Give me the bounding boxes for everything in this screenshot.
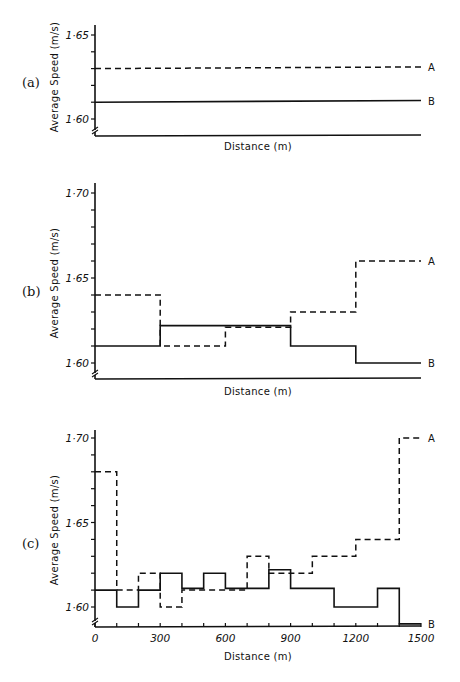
figure: (a) Average Speed (m/s) Distance (m) 1·6… — [0, 0, 460, 682]
series-a-label: A — [428, 62, 435, 73]
plot-area: 1·601·651·70030060090012001500AB — [66, 430, 435, 644]
panel-label: (a) — [22, 75, 40, 90]
series-b-label: B — [428, 358, 435, 369]
series-b-label: B — [428, 619, 435, 630]
x-tick-label: 1500 — [408, 632, 435, 644]
series-a-label: A — [428, 256, 435, 267]
x-tick-label: 300 — [150, 632, 170, 644]
x-tick-label: 0 — [92, 632, 99, 644]
x-axis-title: Distance (m) — [224, 386, 292, 397]
x-axis-title: Distance (m) — [224, 141, 292, 152]
panel-label: (c) — [22, 536, 39, 551]
y-tick-label: 1·65 — [66, 29, 90, 41]
x-axis-line — [95, 378, 421, 379]
y-axis-title: Average Speed (m/s) — [49, 22, 60, 133]
y-tick-label: 1·70 — [66, 432, 90, 444]
y-tick-label: 1·65 — [66, 272, 90, 284]
x-axis-title: Distance (m) — [224, 651, 292, 662]
series-a-line — [95, 67, 421, 69]
y-tick-label: 1·70 — [66, 187, 90, 199]
plot-area: 1·601·65AB — [66, 25, 435, 136]
plot-area: 1·601·651·70AB — [66, 183, 435, 379]
y-tick-label: 1·60 — [66, 601, 90, 613]
panel-c: (c) Average Speed (m/s) Distance (m) 1·6… — [22, 430, 435, 662]
x-axis-line — [95, 135, 421, 136]
series-a-label: A — [428, 433, 435, 444]
panel-label: (b) — [22, 284, 40, 299]
y-tick-label: 1·65 — [66, 517, 90, 529]
series-b-line — [95, 326, 421, 363]
y-axis-title: Average Speed (m/s) — [49, 475, 60, 586]
series-a-line — [95, 438, 421, 607]
x-axis-line — [95, 626, 421, 627]
x-tick-label: 900 — [281, 632, 301, 644]
panel-b: (b) Average Speed (m/s) Distance (m) 1·6… — [22, 183, 435, 397]
series-b-line — [95, 570, 421, 624]
y-axis-title: Average Speed (m/s) — [49, 228, 60, 339]
x-tick-label: 600 — [215, 632, 235, 644]
y-tick-label: 1·60 — [66, 113, 90, 125]
series-a-line — [95, 261, 421, 346]
series-b-line — [95, 101, 421, 103]
series-b-label: B — [428, 96, 435, 107]
panel-a: (a) Average Speed (m/s) Distance (m) 1·6… — [22, 22, 435, 152]
y-tick-label: 1·60 — [66, 357, 90, 369]
x-tick-label: 1200 — [342, 632, 369, 644]
